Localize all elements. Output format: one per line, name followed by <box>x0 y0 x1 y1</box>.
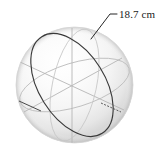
sphere-figure-canvas <box>0 0 158 153</box>
sphere-figure: 18.7 cm <box>0 0 158 153</box>
sphere-body <box>16 27 133 143</box>
